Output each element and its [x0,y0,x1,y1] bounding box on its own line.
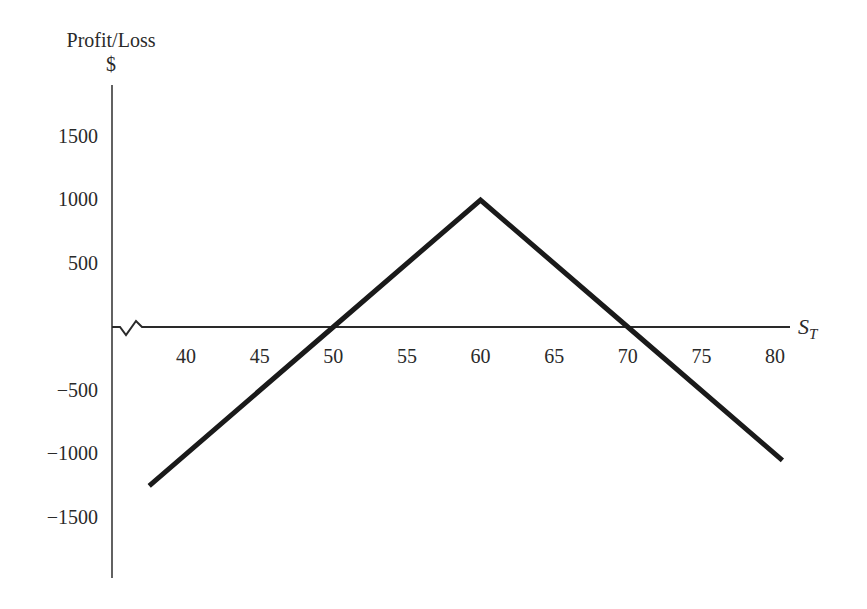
x-tick-label: 75 [681,346,721,366]
y-tick-label: −500 [18,380,98,400]
x-axis-label-main: S [798,314,809,339]
x-axis-label: ST [798,314,817,343]
x-tick-label: 70 [608,346,648,366]
y-tick-label: 1500 [18,126,98,146]
x-axis-line [112,321,790,335]
y-tick-label: 500 [18,253,98,273]
x-tick-label: 80 [755,346,795,366]
y-tick-label: 1000 [18,189,98,209]
x-tick-label: 55 [387,346,427,366]
x-tick-label: 50 [313,346,353,366]
x-tick-label: 65 [534,346,574,366]
x-axis-label-sub: T [809,326,817,342]
y-tick-label: −1500 [18,507,98,527]
y-tick-label: −1000 [18,443,98,463]
x-tick-label: 45 [240,346,280,366]
x-tick-label: 40 [166,346,206,366]
x-tick-label: 60 [461,346,501,366]
chart-plot [0,0,867,609]
profit-loss-line [149,200,782,486]
